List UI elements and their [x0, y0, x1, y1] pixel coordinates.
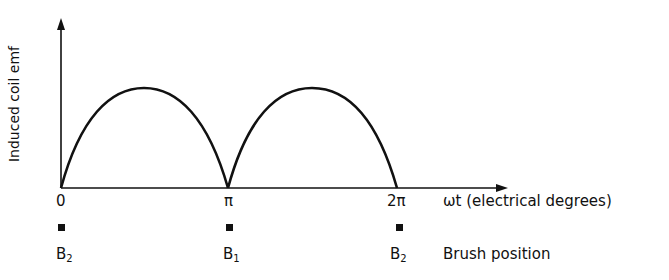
- x-tick-pi: π: [224, 192, 233, 210]
- emf-curve-half-2: [228, 88, 397, 188]
- y-axis-arrow-icon: [57, 18, 65, 30]
- brush-marker-b2-left: [58, 224, 65, 231]
- x-axis-arrow-icon: [496, 184, 508, 192]
- x-tick-2pi: 2π: [387, 192, 406, 210]
- brush-position-label: Brush position: [443, 245, 550, 263]
- x-axis-label: ωt (electrical degrees): [443, 192, 612, 210]
- brush-label-b2-left: B2: [56, 245, 73, 264]
- x-tick-0: 0: [56, 192, 66, 210]
- brush-label-b1: B1: [223, 245, 240, 264]
- brush-label-b2-right: B2: [390, 245, 407, 264]
- brush-marker-b2-right: [396, 224, 403, 231]
- brush-marker-b1: [226, 224, 233, 231]
- emf-curve-half-1: [61, 88, 228, 188]
- y-axis-label: Induced coil emf: [6, 46, 22, 162]
- emf-diagram: [0, 0, 669, 280]
